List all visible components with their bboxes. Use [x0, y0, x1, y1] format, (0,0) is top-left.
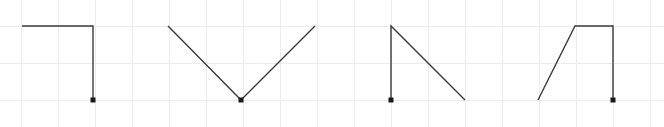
shape-3-vertical-then-diagonal-endpoint-marker [389, 98, 394, 103]
shape-4-ramp-plateau-drop-endpoint-marker [611, 98, 616, 103]
shape-4-ramp-plateau-drop [538, 26, 613, 100]
shape-1-corner-down [22, 26, 93, 100]
shape-2-vee [168, 26, 315, 100]
shape-3-vertical-then-diagonal [391, 26, 465, 100]
shape-1-corner-down-endpoint-marker [91, 98, 96, 103]
shape-2-vee-endpoint-marker [239, 98, 244, 103]
diagram-canvas [0, 0, 664, 127]
stroke-paths-layer [0, 0, 664, 127]
